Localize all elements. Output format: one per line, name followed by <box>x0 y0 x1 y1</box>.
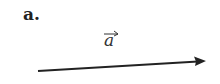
vector-diagram <box>0 0 220 84</box>
vector-arrow <box>38 57 206 72</box>
overarrow-icon <box>104 31 118 36</box>
